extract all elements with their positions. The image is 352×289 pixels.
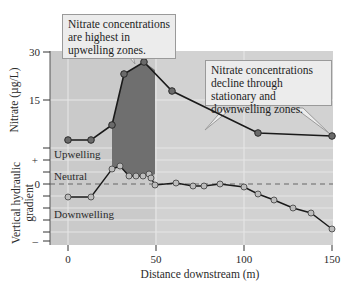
x-tick-50: 50 [151,253,163,265]
x-tick-100: 100 [236,253,253,265]
callout-decline-text: Nitrate concentrations decline through s… [211,64,313,115]
nitrate-axis-title: Nitrate (µg/L) [8,67,21,132]
x-axis-title: Distance downstream (m) [141,268,260,281]
x-ticks [68,245,332,251]
nitrate-tick-15: 15 [29,94,41,106]
zone-label-downwelling: Downwelling [54,208,114,220]
vhg-ticks [43,160,50,241]
vhg-tick-plus: + [32,154,38,166]
callout-upwelling-text: Nitrate concentrations are highest in up… [68,18,170,56]
x-tick-150: 150 [324,253,341,265]
nitrate-gradient-chart: Upwelling Neutral Downwelling 30 15 + 0 … [0,0,352,289]
callout-decline: Nitrate concentrations decline through s… [205,60,332,106]
nitrate-ticks [43,52,50,148]
x-tick-0: 0 [65,253,71,265]
nitrate-tick-30: 30 [29,46,41,58]
vhg-tick-minus: – [32,235,39,247]
callout-upwelling: Nitrate concentrations are highest in up… [62,14,176,59]
zone-label-neutral: Neutral [54,170,87,182]
vhg-axis-title-line1: Vertical hydraulic [10,162,23,244]
zone-label-upwelling: Upwelling [54,148,101,160]
vhg-tick-zero: 0 [35,178,41,190]
vhg-axis-title-line2: gradient [23,183,36,221]
